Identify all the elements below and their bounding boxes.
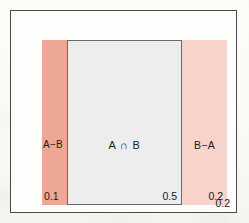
region-value-a-minus-b: 0.1 <box>44 191 59 202</box>
region-a-intersect-b <box>67 40 182 205</box>
region-b-minus-a <box>182 40 227 205</box>
region-value-complement: 0.2 <box>215 198 230 209</box>
region-value-a-intersect-b: 0.5 <box>67 191 177 202</box>
set-region-band: A−B A ∩ B B−A 0.1 0.5 0.2 <box>42 40 227 205</box>
region-label-b-minus-a: B−A <box>182 140 227 151</box>
region-a-minus-b <box>42 40 67 205</box>
region-label-a-intersect-b: A ∩ B <box>67 140 182 151</box>
region-label-a-minus-b: A−B <box>43 140 63 150</box>
universal-set-frame: A−B A ∩ B B−A 0.1 0.5 0.2 0.2 <box>10 10 237 213</box>
